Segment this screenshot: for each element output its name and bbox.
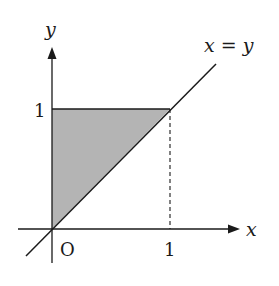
- x-axis-label: x: [246, 218, 257, 240]
- diagram-canvas: y x x = y 1 1 O: [0, 0, 279, 286]
- x-axis-arrow-icon: [228, 225, 240, 234]
- x-tick-label: 1: [164, 239, 175, 260]
- y-axis-arrow-icon: [48, 47, 57, 59]
- origin-label: O: [60, 239, 75, 260]
- line-label: x = y: [204, 34, 254, 56]
- y-axis-label: y: [44, 18, 56, 40]
- y-tick-label: 1: [34, 100, 45, 121]
